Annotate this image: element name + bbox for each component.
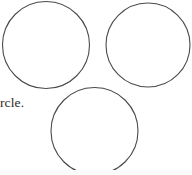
body-text-fragment: rcle.	[0, 95, 24, 111]
three-circles-figure	[0, 0, 192, 174]
top-right-circle	[106, 3, 190, 87]
top-left-circle	[3, 2, 90, 89]
document-page: rcle.	[0, 0, 192, 174]
bottom-edge-band	[0, 170, 192, 174]
bottom-center-circle	[51, 88, 138, 175]
